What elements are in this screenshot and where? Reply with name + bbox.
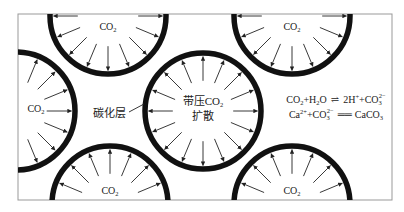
diffusion-arrow-icon <box>136 0 159 5</box>
diffusion-arrow-icon <box>320 0 343 5</box>
diffusion-arrow-icon <box>0 60 4 83</box>
center-label-line1: 带压CO2 <box>183 95 224 108</box>
diffusion-arrow-icon <box>0 139 4 162</box>
carbonation-layer-label: 碳化层 <box>93 106 126 119</box>
diagram-canvas: CO2CO2CO2CO2CO2 带压CO2 扩散 碳化层 CO2+H2O⇌2H+… <box>0 0 404 212</box>
diffusion-arrow-icon <box>242 0 265 5</box>
pore-carbonation-diagram: CO2CO2CO2CO2CO2 带压CO2 扩散 碳化层 CO2+H2O⇌2H+… <box>0 0 404 212</box>
center-label-line2: 扩散 <box>192 109 214 122</box>
diffusion-arrow-icon <box>58 0 81 5</box>
